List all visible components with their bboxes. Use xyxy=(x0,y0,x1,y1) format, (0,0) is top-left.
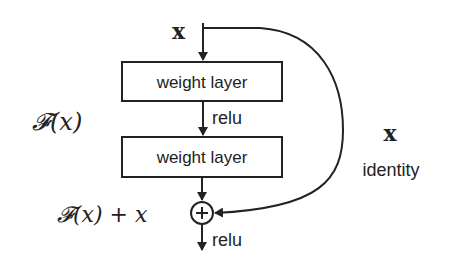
weight-layer-2: weight layer xyxy=(122,137,282,177)
adder-node xyxy=(191,202,213,224)
residual-function-label: 𝓕(x) xyxy=(32,108,82,136)
sum-label: 𝓕(x) + x xyxy=(57,202,148,227)
weight-layer-2-label: weight layer xyxy=(156,148,248,167)
residual-block-diagram: x weight layer relu weight layer relu x … xyxy=(0,0,453,264)
weight-layer-1-label: weight layer xyxy=(156,73,248,92)
output-relu-label: relu xyxy=(212,230,242,250)
weight-layer-1: weight layer xyxy=(122,62,282,101)
identity-label: identity xyxy=(362,160,419,180)
shortcut-x-label: x xyxy=(383,120,397,146)
relu-label-hidden: relu xyxy=(212,108,242,128)
input-x-label: x xyxy=(172,18,186,44)
